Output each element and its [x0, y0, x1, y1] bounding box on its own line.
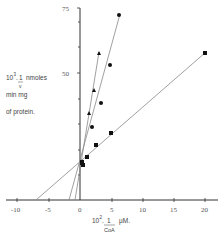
circle-series-line	[69, 14, 120, 200]
x-tick-20: 20	[201, 206, 209, 214]
x-tick-5: 5	[110, 206, 114, 214]
svg-text:v: v	[19, 83, 22, 89]
svg-text:.: .	[16, 74, 18, 81]
regression-lines	[36, 14, 206, 200]
svg-text:1: 1	[107, 217, 111, 224]
x-tick-0: 0	[78, 206, 82, 214]
svg-text:nmoles: nmoles	[26, 74, 48, 81]
svg-text:10: 10	[6, 74, 14, 81]
svg-text:CoA: CoA	[104, 227, 115, 233]
y-tick-50: 50	[62, 70, 70, 78]
y-tick-75: 75	[62, 5, 70, 13]
square-series-markers	[80, 51, 207, 167]
x-tick-10: 10	[139, 206, 147, 214]
svg-text:min mg: min mg	[6, 91, 28, 99]
x-axis-label: 10 2 . 1 CoA µM.	[92, 215, 130, 233]
x-tick-15: 15	[170, 206, 178, 214]
svg-text:µM.: µM.	[119, 217, 130, 225]
lineweaver-burk-plot: 75 50 -10 -5 0 5 10 15 20 10 3 . 1	[0, 0, 224, 234]
y-axis-label: 10 3 . 1 v nmoles min mg of protein.	[6, 72, 48, 116]
x-tick--5: -5	[45, 206, 51, 214]
svg-text:.: .	[102, 217, 104, 224]
svg-text:1: 1	[19, 74, 23, 81]
triangle-series-line	[75, 52, 99, 200]
x-tick--10: -10	[11, 206, 21, 214]
svg-text:of protein.: of protein.	[6, 108, 35, 116]
svg-text:10: 10	[92, 217, 100, 224]
circle-series-markers	[90, 13, 121, 129]
